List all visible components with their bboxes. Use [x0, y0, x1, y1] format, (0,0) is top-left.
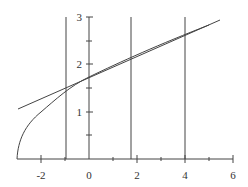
x-tick-label: -2 [36, 169, 45, 181]
curve [17, 25, 209, 159]
x-tick-label: 6 [230, 169, 236, 181]
y-tick-label: 2 [77, 58, 83, 70]
y-tick-label: 3 [77, 11, 83, 23]
x-tick-label: 4 [182, 169, 188, 181]
chart: -2 0 2 4 6 1 2 3 [0, 0, 248, 187]
x-tick-label: 2 [134, 169, 140, 181]
x-tick-label: 0 [86, 169, 92, 181]
straight-line [18, 20, 220, 109]
y-tick-label: 1 [77, 106, 83, 118]
